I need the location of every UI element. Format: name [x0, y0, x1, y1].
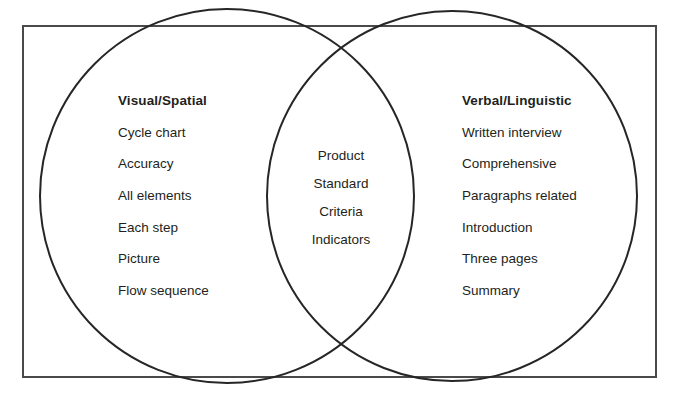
venn-diagram-canvas: Visual/Spatial Cycle chart Accuracy All …	[0, 0, 680, 402]
intersection-item-1: Product	[281, 149, 401, 163]
left-set-labels: Visual/Spatial Cycle chart Accuracy All …	[118, 94, 209, 316]
right-set-item-5: Three pages	[462, 252, 577, 266]
left-set-item-5: Picture	[118, 252, 209, 266]
left-set-item-6: Flow sequence	[118, 284, 209, 298]
right-set-item-2: Comprehensive	[462, 157, 577, 171]
right-set-item-1: Written interview	[462, 126, 577, 140]
intersection-item-3: Criteria	[281, 205, 401, 219]
intersection-labels: Product Standard Criteria Indicators	[281, 149, 401, 261]
right-set-item-4: Introduction	[462, 221, 577, 235]
right-set-item-3: Paragraphs related	[462, 189, 577, 203]
left-set-item-2: Accuracy	[118, 157, 209, 171]
right-set-labels: Verbal/Linguistic Written interview Comp…	[462, 94, 577, 316]
intersection-item-2: Standard	[281, 177, 401, 191]
left-set-item-1: Cycle chart	[118, 126, 209, 140]
left-set-item-4: Each step	[118, 221, 209, 235]
intersection-item-4: Indicators	[281, 233, 401, 247]
right-set-heading: Verbal/Linguistic	[462, 94, 577, 108]
left-set-item-3: All elements	[118, 189, 209, 203]
right-set-item-6: Summary	[462, 284, 577, 298]
left-set-heading: Visual/Spatial	[118, 94, 209, 108]
